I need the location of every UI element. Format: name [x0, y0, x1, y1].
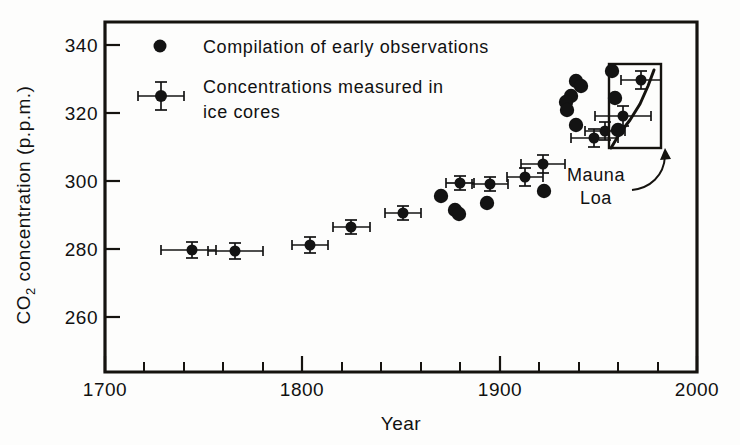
data-point-observation — [434, 189, 448, 203]
data-point-ice-core — [595, 106, 651, 126]
y-tick-label-340: 340 — [65, 35, 98, 56]
data-point-observation — [560, 103, 574, 117]
data-point-observation — [569, 118, 583, 132]
y-tick-label-280: 280 — [65, 239, 98, 260]
x-axis-major-ticks — [105, 356, 697, 372]
data-point-ice-core — [521, 155, 565, 173]
x-axis-tick-labels: 1700 1800 1900 2000 — [83, 379, 719, 400]
mauna-loa-annotation: Mauna Loa — [567, 148, 671, 208]
legend-marker-observations — [154, 40, 167, 53]
co2-concentration-chart: 340 320 300 280 260 CO2 concentration (p… — [0, 0, 740, 445]
y-axis-tick-labels: 340 320 300 280 260 — [65, 35, 98, 328]
y-tick-label-300: 300 — [65, 171, 98, 192]
legend-label-ice-cores-line2: ice cores — [203, 102, 280, 122]
mauna-loa-label-line1: Mauna — [567, 165, 625, 185]
chart-canvas: 340 320 300 280 260 CO2 concentration (p… — [0, 0, 740, 445]
data-point-ice-core — [621, 71, 661, 89]
data-point-observation — [605, 64, 619, 78]
x-tick-label-1700: 1700 — [83, 379, 127, 400]
mauna-loa-arrow-head — [660, 148, 671, 160]
x-tick-label-2000: 2000 — [675, 379, 719, 400]
data-point-ice-core — [472, 177, 508, 191]
svg-text:CO2 concentration (p.p.m.): CO2 concentration (p.p.m.) — [13, 86, 38, 325]
data-point-ice-core — [292, 237, 328, 253]
x-tick-label-1900: 1900 — [478, 379, 522, 400]
y-axis-ticks — [105, 45, 120, 317]
y-axis-title-rest: concentration (p.p.m.) — [13, 86, 34, 288]
data-point-observation — [537, 184, 551, 198]
data-point-ice-core — [333, 220, 370, 234]
data-point-observation — [611, 123, 625, 137]
chart-legend: Compilation of early observations Concen… — [138, 37, 489, 122]
data-point-observation — [480, 196, 494, 210]
data-point-observation — [452, 207, 466, 221]
data-point-ice-core — [507, 168, 543, 186]
x-tick-label-1800: 1800 — [280, 379, 324, 400]
y-axis-title-subscript: 2 — [23, 287, 38, 295]
y-tick-label-260: 260 — [65, 307, 98, 328]
data-point-observation — [608, 91, 622, 105]
mauna-loa-arrow — [632, 156, 665, 190]
legend-label-ice-cores-line1: Concentrations measured in — [203, 77, 444, 97]
y-axis-title-co: CO — [13, 295, 34, 325]
legend-label-observations: Compilation of early observations — [203, 37, 489, 57]
y-tick-label-320: 320 — [65, 103, 98, 124]
data-point-ice-core — [385, 206, 421, 220]
x-axis-title: Year — [381, 413, 422, 434]
y-axis-title: CO2 concentration (p.p.m.) — [13, 86, 38, 325]
legend-marker-ice-cores — [138, 82, 184, 110]
mauna-loa-label-line2: Loa — [580, 188, 612, 208]
data-point-ice-core — [446, 176, 474, 190]
data-point-observation — [574, 79, 588, 93]
